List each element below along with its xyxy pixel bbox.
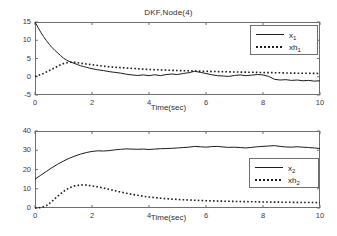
legend-bottom: x2 xh2 (249, 158, 319, 188)
x-tick-label: 10 (310, 98, 330, 107)
legend-label-x2: x2 (288, 164, 295, 173)
legend-item-xh2: xh2 (254, 174, 300, 186)
legend-item-xh1: xh1 (255, 41, 301, 53)
y-tick-label: 30 (11, 145, 31, 154)
x-axis-label-top: Time(sec) (0, 103, 337, 112)
x-tick-label: 8 (253, 211, 273, 220)
legend-label-xh1: xh1 (289, 43, 301, 52)
chart-panel-top: DKF,Node(4) Time(sec) x1 xh1 02468 (0, 0, 337, 118)
x-tick-label: 4 (139, 211, 159, 220)
legend-swatch-solid (255, 31, 285, 39)
legend-swatch-dotted (255, 43, 285, 51)
y-tick-label: 10 (11, 35, 31, 44)
y-tick-label: 5 (11, 54, 31, 63)
y-tick-label: 0 (11, 72, 31, 81)
x-tick-label: 2 (82, 211, 102, 220)
legend-swatch-solid (254, 164, 284, 172)
legend-label-xh2: xh2 (288, 176, 300, 185)
x-tick-label: 8 (253, 98, 273, 107)
x-tick-label: 0 (25, 98, 45, 107)
x-tick-label: 4 (139, 98, 159, 107)
figure-root: DKF,Node(4) Time(sec) x1 xh1 02468 (0, 0, 337, 236)
x-tick-label: 2 (82, 98, 102, 107)
x-tick-label: 0 (25, 211, 45, 220)
y-tick-label: 15 (11, 17, 31, 26)
x-tick-label: 6 (196, 211, 216, 220)
chart-panel-bottom: Time(sec) x2 xh2 0246810010203040 (0, 118, 337, 236)
legend-swatch-dotted (254, 176, 284, 184)
legend-item-x2: x2 (254, 162, 295, 174)
y-tick-label: 0 (11, 203, 31, 212)
y-tick-label: 20 (11, 165, 31, 174)
legend-item-x1: x1 (255, 29, 296, 41)
y-tick-label: -5 (11, 90, 31, 99)
legend-label-x1: x1 (289, 31, 296, 40)
legend-top: x1 xh1 (250, 25, 318, 55)
x-tick-label: 6 (196, 98, 216, 107)
series-xh_2 (35, 185, 320, 208)
y-tick-label: 10 (11, 184, 31, 193)
y-tick-label: 40 (11, 126, 31, 135)
x-axis-label-bottom: Time(sec) (0, 213, 337, 222)
plot-area-top (0, 0, 337, 118)
x-tick-label: 10 (310, 211, 330, 220)
